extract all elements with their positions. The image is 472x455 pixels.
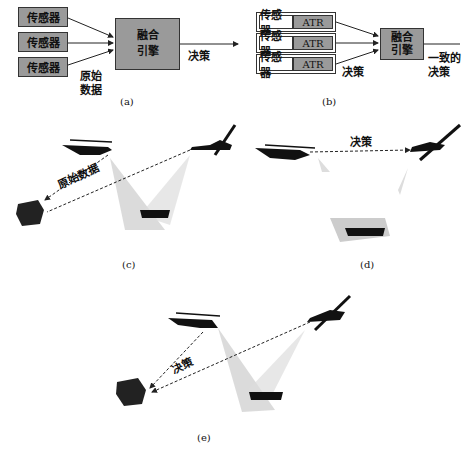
panel-e-scene bbox=[116, 296, 350, 412]
sensor-box-1: 传感器 bbox=[18, 7, 68, 27]
decision-input-label: 决策 bbox=[342, 66, 364, 80]
engine-label-2: 引擎 bbox=[137, 44, 159, 60]
consistent-decision-label: 一致的 决策 bbox=[428, 52, 461, 80]
engine-label-1: 融合 bbox=[137, 28, 159, 44]
atr-cell: ATR bbox=[293, 36, 333, 50]
sensor-cell: 传感器 bbox=[259, 57, 293, 71]
engine-label-2: 引擎 bbox=[391, 44, 413, 57]
caption-e: (e) bbox=[197, 432, 211, 443]
caption-b: (b) bbox=[322, 96, 336, 107]
output-line-1: 一致的 bbox=[428, 52, 461, 66]
caption-a: (a) bbox=[120, 96, 134, 107]
fusion-engine-a: 融合 引擎 bbox=[115, 18, 180, 70]
decision-link-label: 决策 bbox=[350, 136, 372, 150]
panel-c-scene bbox=[16, 125, 235, 230]
engine-label-1: 融合 bbox=[391, 31, 413, 44]
atr-cell: ATR bbox=[293, 57, 333, 71]
decision-output-label: 决策 bbox=[188, 50, 210, 64]
output-line-2: 决策 bbox=[428, 66, 461, 80]
sensor-box-2: 传感器 bbox=[18, 32, 68, 52]
caption-c: (c) bbox=[122, 259, 135, 270]
raw-line-2: 数据 bbox=[80, 84, 102, 98]
atr-cell: ATR bbox=[293, 15, 333, 29]
raw-data-label: 原始 数据 bbox=[80, 70, 102, 98]
sensor-atr-row-3: 传感器 ATR bbox=[256, 54, 336, 74]
fusion-engine-b: 融合 引擎 bbox=[380, 28, 424, 60]
caption-d: (d) bbox=[360, 259, 374, 270]
raw-line-1: 原始 bbox=[80, 70, 102, 84]
sensor-box-3: 传感器 bbox=[18, 57, 68, 77]
diagram-lines bbox=[0, 0, 472, 455]
